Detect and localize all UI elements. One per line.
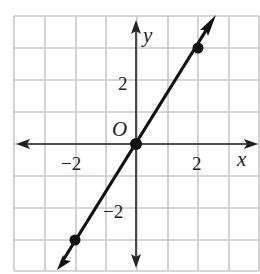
y-tick-label-neg2: −2 (103, 201, 123, 222)
point-2-4 (193, 43, 204, 54)
x-axis-label: x (236, 147, 247, 171)
coordinate-plane: y x O 2 −2 −2 2 (0, 0, 260, 274)
x-tick-label-2: 2 (192, 153, 202, 174)
y-axis-label: y (141, 23, 153, 47)
point-origin (130, 138, 142, 150)
y-tick-label-2: 2 (118, 73, 128, 94)
point-neg2-neg4 (70, 235, 81, 246)
x-tick-label-neg2: −2 (61, 153, 81, 174)
line-up-arrow-icon (200, 15, 216, 36)
origin-label: O (112, 117, 127, 141)
